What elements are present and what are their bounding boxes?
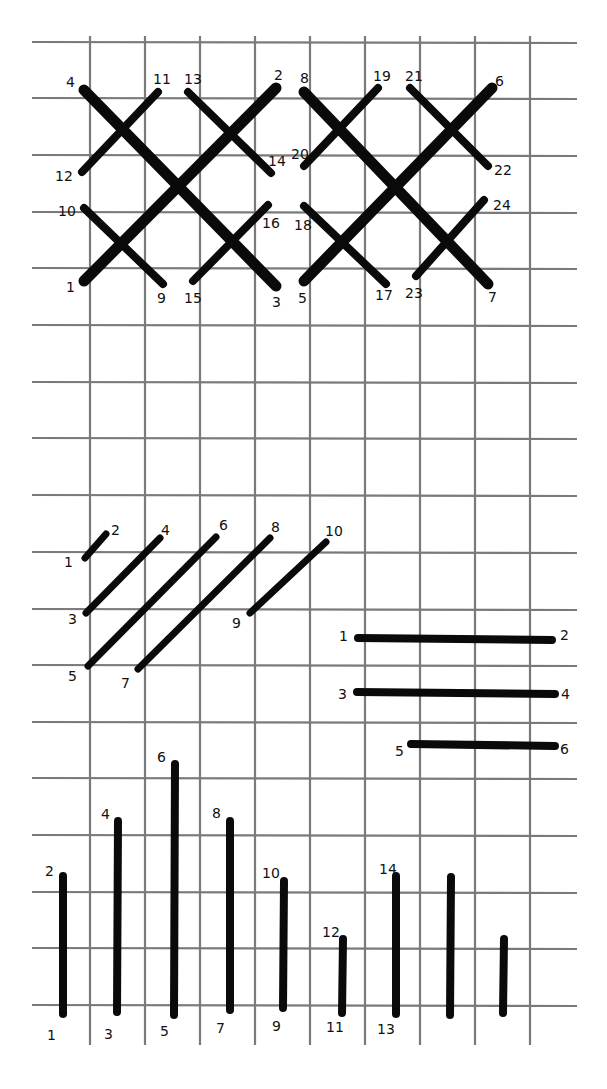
stitch-diagram: 4111328192161214202210161824191535172371… — [0, 0, 607, 1089]
stitch-number-label: 2 — [45, 863, 54, 879]
stitch-line — [117, 821, 118, 1012]
grid-line-horizontal — [32, 552, 577, 553]
stitch-number-label: 24 — [493, 197, 511, 213]
stitch-number-label: 8 — [300, 70, 309, 86]
stitch-number-label: 1 — [66, 279, 75, 295]
grid-line-horizontal — [32, 495, 577, 496]
stitch-line — [174, 764, 175, 1015]
stitch-number-label: 14 — [379, 861, 397, 877]
grid-line-horizontal — [32, 325, 577, 326]
stitch-number-label: 22 — [494, 162, 512, 178]
stitch-number-label: 3 — [104, 1026, 113, 1042]
stitch-number-label: 7 — [216, 1020, 225, 1036]
stitch-number-label: 1 — [339, 628, 348, 644]
stitch-number-label: 21 — [405, 68, 423, 84]
stitch-number-label: 7 — [121, 675, 130, 691]
stitch-number-label: 17 — [375, 287, 393, 303]
stitch-number-label: 5 — [160, 1023, 169, 1039]
stitch-number-label: 4 — [561, 686, 570, 702]
stitch-number-label: 2 — [560, 627, 569, 643]
grid-line-horizontal — [32, 665, 577, 666]
stitch-number-label: 4 — [66, 74, 75, 90]
stitch-number-label: 6 — [560, 741, 569, 757]
grid-line-horizontal — [32, 778, 577, 779]
stitch-line — [411, 744, 555, 746]
stitch-number-label: 16 — [262, 215, 280, 231]
stitch-number-label: 8 — [212, 805, 221, 821]
stitch-number-label: 12 — [55, 168, 73, 184]
stitch-number-label: 3 — [68, 611, 77, 627]
stitch-number-label: 5 — [395, 743, 404, 759]
stitch-line — [357, 692, 555, 694]
stitch-number-label: 5 — [298, 290, 307, 306]
stitch-number-label: 10 — [262, 865, 280, 881]
large-cross-stitch-pattern: 411132819216121420221016182419153517237 — [55, 67, 512, 310]
stitch-number-label: 6 — [219, 517, 228, 533]
stitch-line — [283, 881, 284, 1008]
horizontal-stitch-sequence: 123456 — [338, 627, 570, 759]
grid-line-horizontal — [32, 835, 577, 836]
stitch-number-label: 4 — [161, 522, 170, 538]
stitch-number-label: 15 — [184, 290, 202, 306]
stitch-number-label: 11 — [153, 71, 171, 87]
stitch-number-label: 11 — [326, 1019, 344, 1035]
grid-line-horizontal — [32, 722, 577, 723]
stitch-number-label: 19 — [373, 68, 391, 84]
stitch-number-label: 23 — [405, 285, 423, 301]
stitch-number-label: 7 — [488, 289, 497, 305]
stitch-number-label: 2 — [111, 522, 120, 538]
stitch-number-label: 18 — [294, 217, 312, 233]
stitch-number-label: 13 — [377, 1021, 395, 1037]
grid-line-horizontal — [32, 268, 577, 269]
stitch-number-label: 3 — [272, 294, 281, 310]
stitch-number-label: 5 — [68, 668, 77, 684]
stitch-number-label: 9 — [272, 1018, 281, 1034]
stitch-number-label: 6 — [157, 749, 166, 765]
grid-line-horizontal — [32, 438, 577, 439]
stitch-number-label: 6 — [495, 73, 504, 89]
stitch-number-label: 4 — [101, 806, 110, 822]
stitch-number-label: 8 — [271, 519, 280, 535]
stitch-number-label: 1 — [64, 554, 73, 570]
stitch-line — [85, 534, 106, 558]
stitch-line — [450, 877, 451, 1015]
stitch-line — [88, 537, 216, 666]
stitch-line — [503, 939, 504, 1013]
stitch-number-label: 14 — [268, 153, 286, 169]
stitch-number-label: 10 — [325, 523, 343, 539]
stitch-number-label: 10 — [58, 203, 76, 219]
stitch-number-label: 1 — [47, 1027, 56, 1043]
stitch-number-label: 2 — [274, 67, 283, 83]
stitch-number-label: 9 — [157, 290, 166, 306]
grid-line-horizontal — [32, 382, 577, 383]
grid-line-horizontal — [32, 42, 577, 43]
stitch-number-label: 3 — [338, 686, 347, 702]
grid-line-horizontal — [32, 609, 577, 610]
stitch-line — [358, 638, 552, 640]
vertical-stitch-sequence: 2468101214135791113 — [45, 749, 504, 1043]
stitch-number-label: 13 — [184, 71, 202, 87]
stitch-number-label: 9 — [232, 615, 241, 631]
stitch-line — [342, 939, 343, 1013]
stitch-number-label: 12 — [322, 924, 340, 940]
stitch-line — [138, 538, 270, 669]
stitch-number-label: 20 — [291, 146, 309, 162]
